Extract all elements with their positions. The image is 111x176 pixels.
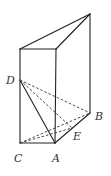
- edge-vertical-a: [55, 49, 56, 143]
- geometry-figure: D B E C A: [0, 0, 111, 176]
- solid-edges: [20, 14, 90, 143]
- label-c: C: [14, 152, 23, 165]
- label-a: A: [51, 152, 60, 165]
- edge-da: [20, 80, 55, 143]
- label-e: E: [72, 130, 81, 143]
- label-d: D: [5, 74, 15, 87]
- label-b: B: [94, 110, 103, 123]
- edge-top-left: [20, 14, 90, 49]
- edge-de: [20, 80, 72, 128]
- edge-top-right: [56, 14, 90, 49]
